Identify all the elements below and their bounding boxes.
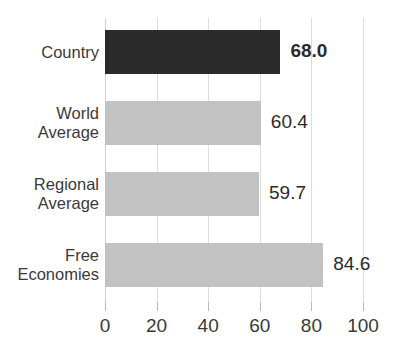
category-label-line: Economies — [1, 265, 99, 284]
x-tick-mark — [157, 302, 158, 311]
chart-title-cropped — [0, 0, 395, 3]
x-tick-mark — [208, 302, 209, 311]
bar-value-label: 84.6 — [333, 253, 370, 275]
x-tick-label: 100 — [347, 315, 379, 337]
bar — [105, 30, 280, 74]
bar-value-label: 59.7 — [269, 182, 306, 204]
bar-value-label: 68.0 — [290, 40, 327, 62]
x-tick-label: 40 — [198, 315, 219, 337]
plot-area: 68.060.459.784.6 — [105, 18, 363, 302]
category-label: Country — [1, 43, 99, 62]
category-label: RegionalAverage — [1, 175, 99, 213]
x-tick-mark — [363, 302, 364, 311]
category-label-line: Free — [1, 246, 99, 265]
bar — [105, 243, 323, 287]
bar — [105, 172, 259, 216]
bar-value-label: 60.4 — [271, 111, 308, 133]
x-tick-label: 60 — [249, 315, 270, 337]
category-label-line: Average — [1, 194, 99, 213]
x-tick-mark — [311, 302, 312, 311]
bar-chart: CountryWorldAverageRegionalAverageFreeEc… — [0, 0, 395, 353]
category-label: WorldAverage — [1, 104, 99, 142]
x-tick-label: 0 — [100, 315, 111, 337]
x-tick-label: 80 — [301, 315, 322, 337]
category-label: FreeEconomies — [1, 246, 99, 284]
x-axis: 020406080100 — [105, 302, 363, 353]
category-label-line: Average — [1, 123, 99, 142]
category-label-line: Regional — [1, 175, 99, 194]
x-tick-mark — [260, 302, 261, 311]
x-tick-mark — [105, 302, 106, 311]
category-label-line: World — [1, 104, 99, 123]
category-label-line: Country — [1, 43, 99, 62]
x-tick-label: 20 — [146, 315, 167, 337]
bar — [105, 101, 261, 145]
category-axis-labels: CountryWorldAverageRegionalAverageFreeEc… — [0, 18, 99, 302]
